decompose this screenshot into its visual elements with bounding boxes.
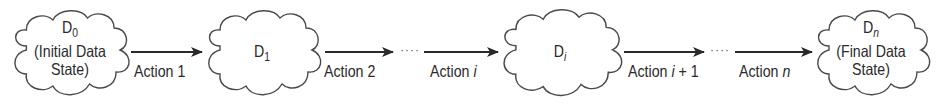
ellipsis-1: ····	[400, 44, 420, 56]
edge-label-action-2: Action 2	[324, 62, 375, 80]
node-d1-title: D1	[236, 42, 288, 66]
node-d0-title: D0	[22, 18, 118, 42]
diagram-canvas	[0, 0, 936, 108]
edge-label-action-n: Action n	[739, 62, 790, 80]
ellipsis-2: ····	[710, 44, 730, 56]
node-d0-label: D0 (Initial Data State)	[22, 18, 118, 78]
node-dn-caption-1: (Final Data	[823, 42, 919, 60]
node-dn-label: Dn (Final Data State)	[823, 18, 919, 78]
node-di-label: Di	[534, 42, 586, 66]
node-dn-caption-2: State)	[823, 60, 919, 78]
node-d1-label: D1	[236, 42, 288, 66]
state-diagram: D0 (Initial Data State) D1 Di Dn (Final …	[0, 0, 936, 108]
edge-label-action-1: Action 1	[134, 62, 185, 80]
node-dn-title: Dn	[823, 18, 919, 42]
node-d0-caption-2: State)	[22, 60, 118, 78]
edge-label-action-i: Action i	[430, 62, 477, 80]
node-d0-caption-1: (Initial Data	[22, 42, 118, 60]
edge-label-action-i-plus-1: Action i + 1	[628, 62, 699, 80]
node-di-title: Di	[534, 42, 586, 66]
